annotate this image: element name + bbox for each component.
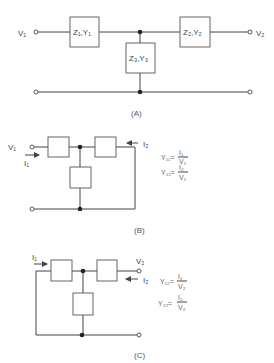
svg-text:Y₂₂=: Y₂₂=	[158, 300, 172, 307]
i2-label: I₂	[143, 276, 148, 285]
figure-b: V₁ I₁ I₂ Y₁₁= I₁ V₁ Y₂₁= I₂ V₁ (B)	[8, 137, 188, 235]
input-terminal-top	[34, 30, 38, 34]
box-b1	[48, 137, 69, 157]
caption-b: (B)	[134, 226, 145, 235]
svg-text:Y₁₂=: Y₁₂=	[160, 278, 174, 285]
i1-label: I₁	[24, 159, 29, 168]
node-c-bottom	[80, 333, 85, 338]
equation-y22: Y₂₂= I₂ V₂	[158, 294, 187, 311]
junction-node-top	[138, 30, 143, 35]
terminal-c-bottom	[137, 333, 141, 337]
equation-y11: Y₁₁= I₁ V₁	[161, 149, 188, 165]
svg-text:I₁: I₁	[178, 273, 183, 280]
node-b-bottom	[78, 207, 83, 212]
terminal-c-top	[137, 269, 141, 273]
box-c2	[97, 260, 117, 281]
equation-y21: Y₂₁= I₂ V₁	[161, 164, 188, 181]
output-terminal-bottom	[248, 90, 252, 94]
svg-text:V₁: V₁	[179, 174, 187, 181]
box2-label: Z₂,Y₂	[183, 28, 202, 37]
v2-label: V₂	[136, 257, 144, 266]
svg-text:V₂: V₂	[178, 283, 186, 290]
box3-label: Z₃,Y₃	[129, 54, 148, 63]
junction-node-bottom	[138, 90, 143, 95]
svg-text:Y₂₁=: Y₂₁=	[161, 169, 175, 176]
figure-a: V₁ V₂ Z₁,Y₁ Z₂,Y₂ Z₃,Y₃ (A)	[18, 17, 264, 118]
output-voltage-label: V₂	[256, 29, 264, 38]
box-c1	[51, 260, 72, 281]
terminal-b-top	[30, 145, 34, 149]
svg-text:V₂: V₂	[178, 304, 186, 311]
caption-a: (A)	[131, 109, 142, 118]
caption-c: (C)	[134, 351, 145, 360]
v1-label: V₁	[8, 143, 16, 152]
box-b2	[95, 137, 116, 157]
svg-text:I₁: I₁	[179, 149, 184, 156]
output-terminal-top	[248, 30, 252, 34]
figure-c: I₁ V₂ I₂ Y₁₂= I₁ V₂ Y₂₂= I₂ V₂ (C)	[32, 253, 187, 360]
equation-y12: Y₁₂= I₁ V₂	[160, 273, 187, 290]
node-b-top	[78, 145, 83, 150]
i2-label: I₂	[143, 140, 148, 149]
svg-text:I₂: I₂	[178, 294, 183, 301]
box-c3	[73, 293, 93, 315]
i1-label: I₁	[32, 253, 37, 262]
node-c-top	[81, 269, 86, 274]
svg-text:Y₁₁=: Y₁₁=	[161, 154, 174, 161]
box-b3	[70, 167, 91, 188]
circuit-diagram: V₁ V₂ Z₁,Y₁ Z₂,Y₂ Z₃,Y₃ (A) V₁ I₁ I₂ Y₁₁…	[0, 0, 274, 363]
input-voltage-label: V₁	[18, 29, 26, 38]
svg-text:I₂: I₂	[179, 164, 184, 171]
input-terminal-bottom	[34, 90, 38, 94]
terminal-b-bottom	[30, 207, 34, 211]
box1-label: Z₁,Y₁	[73, 28, 91, 37]
